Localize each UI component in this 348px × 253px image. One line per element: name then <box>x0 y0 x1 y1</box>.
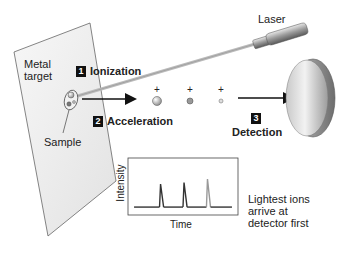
step-ionization-label: Ionization <box>90 65 141 77</box>
ion-charge-3: + <box>218 84 224 96</box>
step-detection: 3 <box>251 112 261 124</box>
step-badge-2: 2 <box>93 116 103 127</box>
laser-label: Laser <box>258 13 286 25</box>
inset-xlabel: Time <box>170 219 192 231</box>
inset-note-line2: arrive at <box>248 205 288 217</box>
metal-target-label-line1: Metal <box>24 58 51 70</box>
ion-charge-2: + <box>187 84 193 96</box>
laser-device <box>252 22 309 50</box>
step-badge-3: 3 <box>251 113 261 124</box>
ion-small <box>219 99 223 103</box>
inset-note-line3: detector first <box>248 217 309 229</box>
step-ionization: 1Ionization <box>76 65 141 77</box>
step-acceleration-label: Acceleration <box>107 115 173 127</box>
step-detection-label: Detection <box>232 126 282 138</box>
metal-target-label-line2: target <box>24 70 52 82</box>
maldi-tof-diagram <box>0 0 348 253</box>
inset-ylabel: Intensity <box>115 158 127 208</box>
ion-charge-1: + <box>154 84 160 96</box>
step-acceleration: 2Acceleration <box>93 115 173 127</box>
sample-label: Sample <box>44 136 81 148</box>
inset-note-line1: Lightest ions <box>248 193 310 205</box>
ion-large <box>153 97 162 106</box>
detector-disk <box>286 59 335 137</box>
metal-target-plate <box>14 23 116 236</box>
ion-medium <box>187 98 193 104</box>
step-badge-1: 1 <box>76 66 86 77</box>
